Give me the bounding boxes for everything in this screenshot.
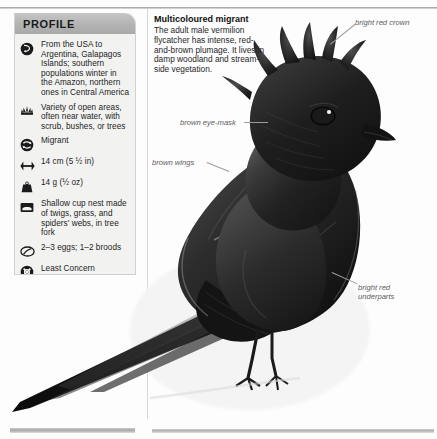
globe-distribution-icon: [19, 41, 35, 56]
annotation-brown-eye-mask-text: brown eye-mask: [180, 118, 236, 127]
profile-row-migration-text: Migrant: [41, 136, 130, 146]
egg-icon: [19, 244, 35, 259]
length-arrows-icon: [19, 158, 35, 173]
nest-icon: [19, 200, 35, 215]
annotation-bright-red-crown: bright red crown: [355, 18, 409, 27]
bird-breast: [216, 183, 326, 331]
profile-row-length-text: 14 cm (5 ½ in): [41, 157, 130, 167]
caption-block: Multicoloured migrant The adult male ver…: [154, 14, 270, 75]
annotation-bright-red-underparts-line2: underparts: [358, 292, 394, 301]
profile-row-eggs: 2–3 eggs; 1–2 broods: [19, 243, 130, 259]
caption-title: Multicoloured migrant: [154, 14, 270, 25]
bird-eye: [311, 107, 336, 126]
bottom-rule-left: [10, 428, 135, 433]
field-guide-page: PROFILE From the USA to Argentina, Galap…: [0, 0, 437, 439]
annotation-bright-red-crown-text: bright red crown: [355, 18, 409, 27]
profile-row-nest: Shallow cup nest made of twigs, grass, a…: [19, 199, 130, 237]
profile-row-length: 14 cm (5 ½ in): [19, 157, 130, 173]
weight-icon: [19, 179, 35, 194]
annotation-bright-red-underparts-line1: bright red: [358, 283, 394, 292]
profile-row-habitat: Variety of open areas, often near water,…: [19, 103, 130, 132]
top-rule: [0, 7, 437, 9]
bird-primaries: [196, 280, 282, 342]
bottom-rule-right: [152, 429, 434, 433]
profile-row-distribution-text: From the USA to Argentina, Galapagos Isl…: [41, 40, 130, 98]
profile-row-weight-text: 14 g (½ oz): [41, 178, 130, 188]
migration-arrows-icon: [19, 137, 35, 152]
bird-wing: [178, 139, 360, 333]
profile-header-label: PROFILE: [23, 18, 75, 30]
annotation-brown-wings: brown wings: [152, 158, 194, 167]
bird-legs: [236, 330, 288, 390]
caption-body: The adult male vermilion flycatcher has …: [154, 26, 270, 75]
profile-row-conservation-text: Least Concern: [41, 264, 130, 274]
annotation-brown-wings-text: brown wings: [152, 158, 194, 167]
profile-row-distribution: From the USA to Argentina, Galapagos Isl…: [19, 40, 130, 98]
profile-row-eggs-text: 2–3 eggs; 1–2 broods: [41, 243, 130, 253]
profile-row-migration: Migrant: [19, 136, 130, 152]
profile-row-weight: 14 g (½ oz): [19, 178, 130, 194]
annotation-bright-red-underparts: bright red underparts: [358, 283, 394, 301]
column-divider: [147, 9, 148, 419]
annotation-brown-eye-mask: brown eye-mask: [180, 118, 236, 127]
conservation-status-icon: [19, 265, 35, 275]
bird-tail: [12, 300, 240, 412]
profile-row-conservation: Least Concern: [19, 264, 130, 275]
profile-body: From the USA to Argentina, Galapagos Isl…: [15, 34, 135, 275]
profile-row-nest-text: Shallow cup nest made of twigs, grass, a…: [41, 199, 130, 237]
profile-header: PROFILE: [15, 13, 135, 34]
leader-brown-eye-mask: [244, 122, 268, 123]
profile-row-habitat-text: Variety of open areas, often near water,…: [41, 103, 130, 132]
leader-brown-wings: [207, 162, 230, 172]
habitat-scrub-icon: [19, 104, 35, 119]
profile-panel: PROFILE From the USA to Argentina, Galap…: [14, 13, 136, 275]
leader-bright-red-underparts: [332, 272, 358, 284]
bird-neck: [246, 124, 342, 231]
leader-bright-red-crown: [330, 24, 355, 45]
bird-beak: [362, 124, 396, 141]
